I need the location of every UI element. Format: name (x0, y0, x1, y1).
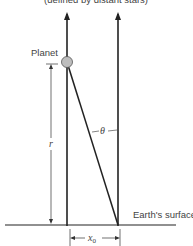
arrow-up-icon (115, 12, 121, 20)
arrow-up-icon (49, 64, 53, 69)
planet-icon (62, 57, 73, 68)
parallax-diagram: (defined by distant stars) Planet r θ Ea… (0, 0, 193, 246)
theta-label: θ (100, 125, 105, 136)
arrow-right-icon (115, 236, 120, 240)
x0-label: x0 (87, 232, 96, 245)
arrow-up-icon (64, 12, 70, 20)
surface-label: Earth's surface (133, 209, 193, 220)
theta-arc-left (92, 131, 99, 132)
theta-arc-right (108, 130, 117, 131)
top-caption: (defined by distant stars) (44, 0, 148, 5)
diagonal-sightline (67, 62, 118, 225)
planet-label: Planet (31, 47, 58, 58)
arrow-down-icon (49, 219, 53, 224)
arrow-left-icon (70, 236, 75, 240)
r-label: r (49, 138, 53, 149)
